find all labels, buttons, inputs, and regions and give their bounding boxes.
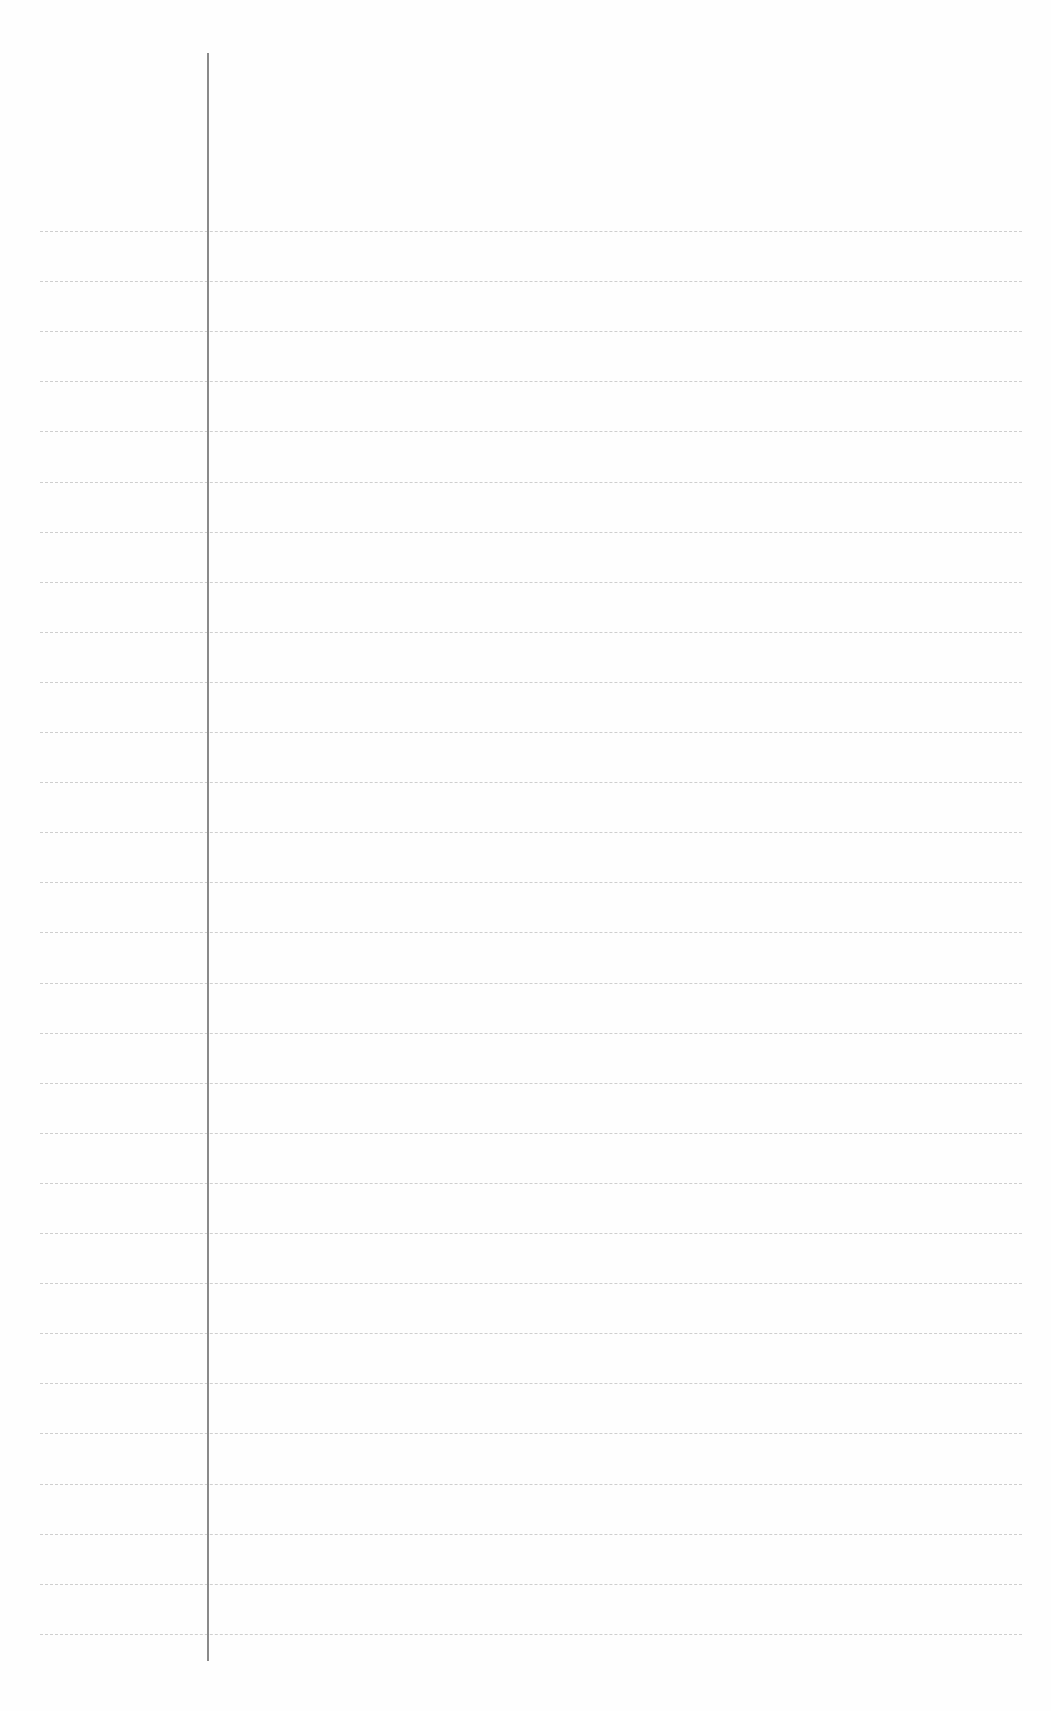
ruled-line: [40, 1183, 1022, 1184]
ruled-line: [40, 582, 1022, 583]
ruled-line: [40, 932, 1022, 933]
ruled-line: [40, 1283, 1022, 1284]
ruled-line: [40, 632, 1022, 633]
ruled-line: [40, 882, 1022, 883]
ruled-line: [40, 1433, 1022, 1434]
ruled-line: [40, 1584, 1022, 1585]
notebook-page: [0, 0, 1051, 1711]
ruled-line: [40, 732, 1022, 733]
ruled-line: [40, 1233, 1022, 1234]
ruled-line: [40, 431, 1022, 432]
ruled-line: [40, 231, 1022, 232]
margin-line: [207, 53, 209, 1661]
ruled-line: [40, 331, 1022, 332]
ruled-line: [40, 532, 1022, 533]
ruled-line: [40, 281, 1022, 282]
ruled-line: [40, 1333, 1022, 1334]
ruled-line: [40, 482, 1022, 483]
ruled-line: [40, 782, 1022, 783]
ruled-line: [40, 682, 1022, 683]
ruled-line: [40, 1083, 1022, 1084]
ruled-line: [40, 1634, 1022, 1635]
ruled-line: [40, 1534, 1022, 1535]
ruled-line: [40, 1484, 1022, 1485]
ruled-line: [40, 1133, 1022, 1134]
ruled-line: [40, 1383, 1022, 1384]
ruled-line: [40, 381, 1022, 382]
ruled-line: [40, 1033, 1022, 1034]
ruled-line: [40, 983, 1022, 984]
ruled-line: [40, 832, 1022, 833]
